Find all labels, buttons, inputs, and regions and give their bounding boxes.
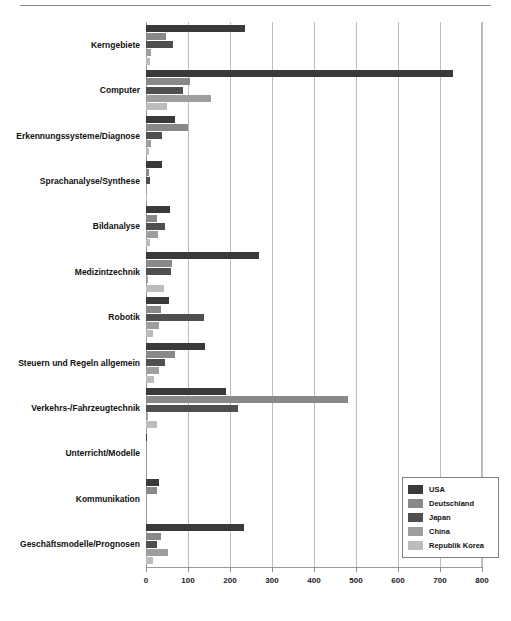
- x-tick-300: [272, 567, 273, 572]
- bar-japan-5: [146, 268, 171, 275]
- bar-republik-korea-5: [146, 285, 164, 292]
- gridline-600: [398, 22, 399, 567]
- legend-item-japan[interactable]: Japan: [408, 511, 494, 524]
- category-label-5: Medizintzechnik: [0, 267, 140, 277]
- bar-deutschland-5: [146, 260, 172, 267]
- x-tick-800: [482, 567, 483, 572]
- bar-deutschland-6: [146, 306, 161, 313]
- legend-label: USA: [429, 485, 445, 494]
- legend-item-deutschland[interactable]: Deutschland: [408, 497, 494, 510]
- bar-usa-10: [146, 479, 159, 486]
- bar-china-4: [146, 231, 158, 238]
- bar-deutschland-2: [146, 124, 188, 131]
- legend-swatch-icon: [408, 527, 423, 536]
- legend-swatch-icon: [408, 513, 423, 522]
- x-tick-700: [440, 567, 441, 572]
- x-tick-100: [188, 567, 189, 572]
- bar-china-1: [146, 95, 211, 102]
- x-tick-label-600: 600: [391, 576, 404, 585]
- gridline-500: [356, 22, 357, 567]
- x-tick-label-300: 300: [265, 576, 278, 585]
- bar-usa-8: [146, 388, 226, 395]
- x-tick-400: [314, 567, 315, 572]
- x-tick-0: [146, 567, 147, 572]
- bar-republik-korea-0: [146, 58, 150, 65]
- gridline-300: [272, 22, 273, 567]
- bar-china-7: [146, 367, 159, 374]
- x-tick-label-400: 400: [307, 576, 320, 585]
- bar-japan-2: [146, 132, 162, 139]
- bar-republik-korea-6: [146, 330, 153, 337]
- x-tick-500: [356, 567, 357, 572]
- bar-republik-korea-8: [146, 421, 157, 428]
- x-tick-label-200: 200: [223, 576, 236, 585]
- bar-usa-9: [146, 434, 147, 441]
- bar-japan-1: [146, 87, 183, 94]
- category-label-1: Computer: [0, 85, 140, 95]
- x-tick-600: [398, 567, 399, 572]
- bar-usa-7: [146, 343, 205, 350]
- category-label-4: Bildanalyse: [0, 221, 140, 231]
- bar-usa-6: [146, 297, 169, 304]
- legend-label: Deutschland: [429, 499, 474, 508]
- category-label-3: Sprachanalyse/Synthese: [0, 176, 140, 186]
- bar-republik-korea-2: [146, 148, 149, 155]
- legend-item-china[interactable]: China: [408, 525, 494, 538]
- bar-usa-0: [146, 25, 245, 32]
- gridline-100: [188, 22, 189, 567]
- category-label-11: Geschäftsmodelle/Prognosen: [0, 539, 140, 549]
- legend-swatch-icon: [408, 499, 423, 508]
- top-divider-rule: [20, 5, 491, 6]
- gridline-200: [230, 22, 231, 567]
- bar-republik-korea-11: [146, 557, 153, 564]
- category-label-7: Steuern und Regeln allgemein: [0, 358, 140, 368]
- bar-japan-11: [146, 541, 157, 548]
- bar-usa-11: [146, 524, 244, 531]
- x-tick-label-500: 500: [349, 576, 362, 585]
- bar-deutschland-10: [146, 487, 157, 494]
- legend-item-usa[interactable]: USA: [408, 483, 494, 496]
- bar-deutschland-3: [146, 169, 149, 176]
- category-label-2: Erkennungssysteme/Diagnose: [0, 131, 140, 141]
- bar-japan-7: [146, 359, 165, 366]
- bar-deutschland-1: [146, 78, 190, 85]
- category-label-0: Kerngebiete: [0, 40, 140, 50]
- bar-republik-korea-7: [146, 376, 154, 383]
- bar-republik-korea-4: [146, 239, 150, 246]
- bar-deutschland-4: [146, 215, 157, 222]
- legend-label: China: [429, 527, 450, 536]
- legend-item-republik-korea[interactable]: Republik Korea: [408, 539, 494, 552]
- x-tick-label-700: 700: [433, 576, 446, 585]
- bar-china-8: [146, 413, 148, 420]
- bar-china-6: [146, 322, 159, 329]
- bar-republik-korea-1: [146, 103, 167, 110]
- legend-swatch-icon: [408, 541, 423, 550]
- bar-china-3: [146, 186, 147, 193]
- legend-label: Republik Korea: [429, 541, 484, 550]
- legend-swatch-icon: [408, 485, 423, 494]
- bar-chart: 0100200300400500600700800 KerngebieteCom…: [0, 0, 511, 621]
- x-tick-200: [230, 567, 231, 572]
- x-tick-label-800: 800: [475, 576, 488, 585]
- bar-japan-4: [146, 223, 165, 230]
- bar-deutschland-0: [146, 33, 166, 40]
- category-label-8: Verkehrs-/Fahrzeugtechnik: [0, 403, 140, 413]
- bar-japan-3: [146, 177, 150, 184]
- bar-china-5: [146, 276, 148, 283]
- bar-china-2: [146, 140, 151, 147]
- legend-label: Japan: [429, 513, 451, 522]
- category-label-6: Robotik: [0, 312, 140, 322]
- bar-china-11: [146, 549, 168, 556]
- bar-usa-2: [146, 116, 175, 123]
- gridline-400: [314, 22, 315, 567]
- category-label-9: Unterricht/Modelle: [0, 448, 140, 458]
- bar-japan-8: [146, 405, 238, 412]
- category-label-10: Kommunikation: [0, 494, 140, 504]
- legend: USADeutschlandJapanChinaRepublik Korea: [402, 477, 499, 558]
- bar-usa-1: [146, 70, 453, 77]
- bar-deutschland-11: [146, 533, 161, 540]
- x-tick-label-0: 0: [144, 576, 148, 585]
- bar-usa-3: [146, 161, 162, 168]
- bar-japan-0: [146, 41, 173, 48]
- bar-deutschland-7: [146, 351, 175, 358]
